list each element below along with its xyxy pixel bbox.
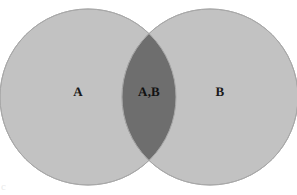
set-b-label: B <box>216 84 225 100</box>
intersection-label: A,B <box>138 84 160 100</box>
set-a-label: A <box>73 84 83 100</box>
venn-diagram-canvas: A A,B B c <box>0 0 297 195</box>
cropped-caption-artifact: c <box>1 181 7 192</box>
